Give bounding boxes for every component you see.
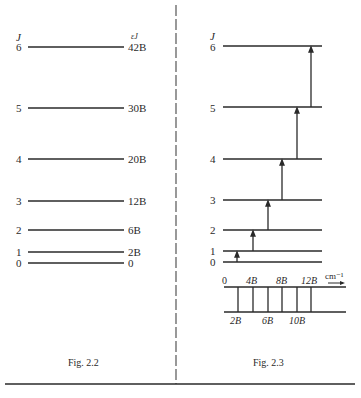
spectrum-label: 12B [301, 275, 317, 286]
fig-2-2: J εJ 6 42B 5 30B 4 20B 3 12B 2 6B 1 [16, 31, 146, 368]
level-j: 6 [16, 41, 22, 53]
level-j: 5 [16, 102, 22, 114]
absorption-spectrum: 0 4B 8B 12B cm⁻¹ 2B 6B 10B [222, 271, 346, 326]
level-energy: 6B [128, 224, 141, 236]
level-energy: 42B [128, 41, 146, 53]
level-3: 3 12B [16, 195, 146, 207]
level-0: 0 0 [16, 257, 134, 269]
level-j: 0 [210, 256, 216, 268]
level-4: 4 20B [16, 153, 146, 165]
level-j: 5 [210, 102, 216, 114]
level-j: 3 [210, 194, 216, 206]
unit-label: cm⁻¹ [325, 271, 344, 281]
spectral-lines [238, 287, 311, 312]
level-6: 6 42B [16, 41, 146, 53]
spectrum-label: 6B [262, 315, 273, 326]
level-energy: 30B [128, 102, 146, 114]
level-2: 2 6B [16, 224, 141, 236]
energy-header: εJ [131, 32, 138, 41]
caption-fig-2-2: Fig. 2.2 [68, 357, 99, 368]
level-energy: 0 [128, 257, 134, 269]
level-1: 1 2B [16, 246, 141, 258]
caption-fig-2-3: Fig. 2.3 [253, 357, 284, 368]
level-j: 0 [16, 257, 22, 269]
level-j: 2 [210, 224, 216, 236]
level-j: 2 [16, 224, 22, 236]
level-j: 4 [210, 153, 216, 165]
level-j: 6 [210, 41, 216, 53]
level-energy: 12B [128, 195, 146, 207]
spectrum-label: 8B [276, 275, 287, 286]
spectrum-label: 2B [230, 315, 241, 326]
level-energy: 20B [128, 153, 146, 165]
energy-level-figure: J εJ 6 42B 5 30B 4 20B 3 12B 2 6B 1 [0, 0, 361, 398]
level-j: 4 [16, 153, 22, 165]
spectrum-label: 10B [289, 315, 305, 326]
spectrum-label: 0 [222, 275, 227, 286]
fig-2-3: J 6 5 4 3 2 1 0 0 4B 8B 12B cm⁻¹ [210, 30, 346, 368]
level-j: 3 [16, 195, 22, 207]
spectrum-label: 4B [246, 275, 257, 286]
level-5: 5 30B [16, 102, 146, 114]
